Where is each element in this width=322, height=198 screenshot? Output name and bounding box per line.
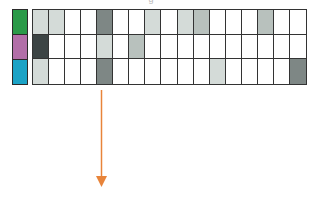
grid-cell bbox=[145, 10, 161, 35]
row-color-swatch-3 bbox=[13, 60, 27, 84]
grid-cell bbox=[81, 35, 97, 60]
grid-cell bbox=[49, 59, 65, 84]
grid-cell bbox=[97, 59, 113, 84]
grid-cell bbox=[145, 59, 161, 84]
grid-cell bbox=[210, 10, 226, 35]
grid-cell bbox=[178, 10, 194, 35]
row-color-legend-strip bbox=[12, 9, 28, 85]
grid-cell bbox=[81, 59, 97, 84]
grid-cell bbox=[113, 10, 129, 35]
grid-cell bbox=[129, 35, 145, 60]
grid-cell bbox=[178, 35, 194, 60]
grid-cell bbox=[274, 59, 290, 84]
grid-cell bbox=[290, 10, 306, 35]
grid-cell bbox=[194, 10, 210, 35]
grid-cell bbox=[274, 35, 290, 60]
grid-cell bbox=[258, 59, 274, 84]
grid-cell bbox=[290, 59, 306, 84]
grid-cell bbox=[113, 35, 129, 60]
grid-cell bbox=[65, 59, 81, 84]
grid-cell bbox=[194, 59, 210, 84]
grid-cell bbox=[258, 10, 274, 35]
row-color-swatch-1 bbox=[13, 10, 27, 35]
grid-cell bbox=[242, 10, 258, 35]
grid-cell bbox=[65, 10, 81, 35]
down-arrow-icon bbox=[96, 90, 107, 188]
grid-cell bbox=[33, 35, 49, 60]
grid-cell bbox=[178, 59, 194, 84]
grid-cell bbox=[274, 10, 290, 35]
grid-cell bbox=[194, 35, 210, 60]
row-color-swatch-2 bbox=[13, 35, 27, 60]
grid-cell bbox=[145, 35, 161, 60]
heatmap-grid bbox=[32, 9, 307, 85]
grid-cell bbox=[226, 59, 242, 84]
grid-cell bbox=[210, 35, 226, 60]
grid-cell bbox=[97, 35, 113, 60]
grid-cell bbox=[210, 59, 226, 84]
grid-cell bbox=[242, 35, 258, 60]
grid-cell bbox=[226, 35, 242, 60]
grid-cell bbox=[129, 10, 145, 35]
grid-cell bbox=[161, 10, 177, 35]
grid-cell bbox=[161, 35, 177, 60]
grid-cell bbox=[49, 10, 65, 35]
top-text-fragment: ' ' g bbox=[140, 0, 153, 4]
grid-cell bbox=[258, 35, 274, 60]
grid-cell bbox=[49, 35, 65, 60]
grid-cell bbox=[81, 10, 97, 35]
grid-cell bbox=[226, 10, 242, 35]
grid-cell bbox=[161, 59, 177, 84]
grid-cell bbox=[33, 10, 49, 35]
grid-cell bbox=[65, 35, 81, 60]
grid-cell bbox=[242, 59, 258, 84]
grid-cell bbox=[290, 35, 306, 60]
grid-cell bbox=[129, 59, 145, 84]
grid-cell bbox=[97, 10, 113, 35]
grid-cell bbox=[33, 59, 49, 84]
grid-cell bbox=[113, 59, 129, 84]
